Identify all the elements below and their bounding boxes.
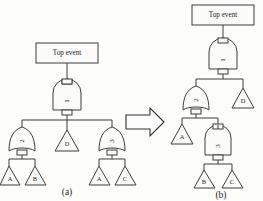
panel-b-gate-2-shape (183, 86, 209, 110)
panel-b: Top event 1 2 D (171, 5, 254, 201)
panel-b-gate-1: 1 (209, 38, 237, 69)
panel-a-gate-2-label: 2 (18, 139, 26, 143)
panel-a-event-A2-label: A (97, 175, 102, 182)
panel-a-gate-3-label: 3 (108, 139, 116, 143)
panel-a-gate-3-input-notch (107, 150, 117, 155)
panel-a-gate-2: 2 (9, 127, 35, 151)
panel-a-top-event-label: Top event (53, 49, 81, 57)
panel-b-top-event-label: Top event (209, 11, 237, 19)
panel-b-event-C-label: C (230, 178, 234, 185)
panel-b-gate-2-label: 2 (192, 98, 200, 102)
panel-b-caption: (b) (215, 190, 226, 201)
panel-b-gate-1-input-notch (218, 69, 228, 74)
panel-b-gate-3: 3 (205, 124, 231, 155)
panel-b-gate-1-top-notch (218, 38, 228, 43)
panel-a-event-D-label: D (65, 140, 70, 147)
panel-a-event-A1: A (0, 166, 20, 185)
panel-b-bus-gate3-children (204, 160, 232, 170)
panel-b-event-D: D (232, 88, 254, 108)
panel-a-event-B: B (25, 166, 46, 185)
panel-a-gate-2-input-notch (17, 150, 27, 155)
panel-a-gate-3-shape (99, 127, 125, 151)
panel-a-bus-gate1-children (22, 115, 112, 130)
panel-b-event-D-label: D (241, 97, 246, 104)
panel-a-bus-gate3-children (99, 155, 125, 166)
panel-a-gate-2-shape (9, 127, 35, 151)
panel-b-bus-gate1-children (196, 74, 243, 88)
panel-a-event-B-label: B (33, 175, 37, 182)
panel-b-gate-3-label: 3 (214, 144, 222, 148)
panel-a-caption: (a) (62, 187, 73, 198)
panel-b-event-B-label: B (202, 178, 206, 185)
panel-b-bus-gate2-children (182, 114, 218, 124)
panel-a: Top event 1 2 (0, 43, 136, 198)
panel-b-gate-1-label: 1 (219, 58, 227, 62)
panel-b-event-C: C (222, 170, 243, 188)
fault-tree-figure: Top event 1 2 (0, 0, 263, 201)
panel-a-event-C: C (115, 166, 136, 185)
panel-b-gate-2-input-notch (191, 109, 201, 114)
panel-a-bus-gate2-children (9, 155, 35, 166)
panel-a-event-A2: A (89, 166, 110, 185)
panel-a-gate-1: 1 (53, 79, 81, 110)
panel-a-gate-1-top-notch (62, 79, 72, 84)
panel-a-event-C-label: C (123, 175, 127, 182)
figure-canvas: Top event 1 2 (0, 0, 263, 201)
panel-a-gate-1-input-notch (62, 110, 72, 115)
panel-b-gate-2: 2 (183, 86, 209, 110)
panel-b-event-A: A (171, 124, 193, 144)
panel-b-event-A-label: A (180, 133, 185, 140)
panel-b-event-B: B (194, 170, 215, 188)
transform-arrow-shape (126, 108, 164, 136)
panel-a-event-D: D (55, 130, 79, 151)
transform-arrow (126, 108, 164, 136)
panel-a-event-A1-label: A (8, 175, 13, 182)
panel-b-gate-3-input-notch (213, 155, 223, 160)
panel-a-gate-3: 3 (99, 127, 125, 151)
panel-a-gate-1-label: 1 (63, 99, 71, 103)
